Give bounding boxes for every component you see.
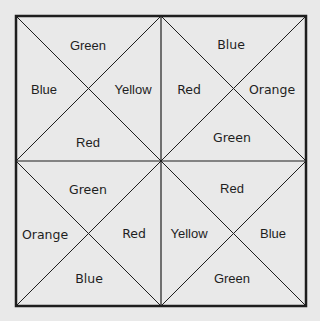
bl-right-label: Red: [122, 226, 146, 241]
bl-bottom-label: Blue: [75, 271, 103, 286]
tr-top-label: Blue: [217, 37, 245, 52]
tl-bottom-label: Red: [76, 135, 100, 150]
tr-left-label: Red: [177, 82, 201, 97]
br-top-label: Red: [220, 181, 244, 196]
bl-left-label: Orange: [22, 227, 68, 242]
tr-bottom-label: Green: [213, 130, 251, 145]
br-bottom-label: Green: [214, 271, 250, 286]
tl-left-label: Blue: [31, 82, 57, 97]
grid-diagram: [0, 0, 320, 321]
tl-right-label: Yellow: [114, 82, 151, 97]
tr-right-label: Orange: [249, 82, 295, 97]
tl-top-label: Green: [70, 38, 106, 53]
bl-top-label: Green: [69, 182, 107, 197]
br-left-label: Yellow: [170, 226, 207, 241]
br-right-label: Blue: [260, 226, 286, 241]
